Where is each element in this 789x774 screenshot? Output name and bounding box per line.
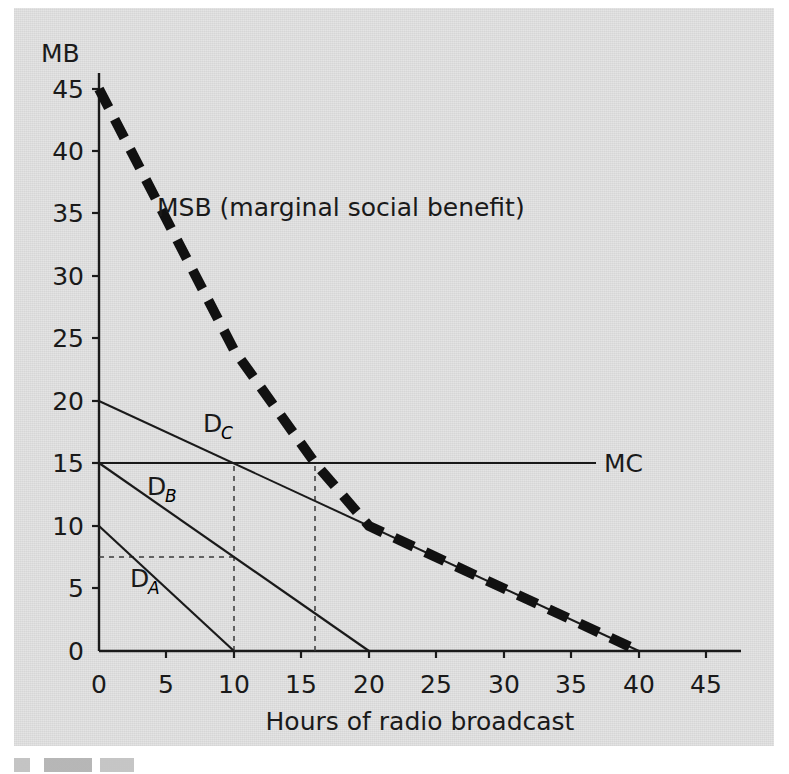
x-tick-label-5: 5 <box>158 670 174 699</box>
db-curve-label-subscript: B <box>165 486 177 506</box>
db-curve-label: D <box>147 472 166 501</box>
x-tick-label-45: 45 <box>690 670 722 699</box>
mc-curve-label: MC <box>604 449 643 478</box>
x-tick-label-35: 35 <box>555 670 587 699</box>
dc-curve-label-subscript: C <box>221 423 233 443</box>
axes-group <box>99 73 741 651</box>
msb-curve <box>99 89 639 651</box>
figure-container: 45 40 35 30 25 20 15 10 5 0 0 5 10 15 20… <box>0 0 789 774</box>
da-curve-label-group: D A <box>130 564 160 598</box>
x-tick-label-20: 20 <box>353 670 385 699</box>
dc-curve-label: D <box>203 409 222 438</box>
y-axis-title: MB <box>41 39 80 68</box>
x-tick-label-15: 15 <box>285 670 317 699</box>
y-tick-label-35: 35 <box>52 199 84 228</box>
x-tick-label-25: 25 <box>420 670 452 699</box>
page-bottom-artifact <box>14 758 314 772</box>
y-tick-label-20: 20 <box>52 387 84 416</box>
y-tick-labels: 45 40 35 30 25 20 15 10 5 0 <box>52 75 84 666</box>
y-tick-label-10: 10 <box>52 512 84 541</box>
x-tick-label-0: 0 <box>91 670 107 699</box>
x-tick-label-40: 40 <box>623 670 655 699</box>
x-tick-label-10: 10 <box>218 670 250 699</box>
y-tick-label-5: 5 <box>68 574 84 603</box>
x-axis-title: Hours of radio broadcast <box>266 707 575 736</box>
y-tick-label-45: 45 <box>52 75 84 104</box>
demand-curve-da <box>99 526 234 651</box>
da-curve-label-subscript: A <box>147 578 160 598</box>
x-tick-labels: 0 5 10 15 20 25 30 35 40 45 <box>91 670 722 699</box>
db-curve-label-group: D B <box>147 472 177 506</box>
y-tick-label-40: 40 <box>52 137 84 166</box>
chart-canvas: 45 40 35 30 25 20 15 10 5 0 0 5 10 15 20… <box>0 0 789 774</box>
y-tick-label-30: 30 <box>52 262 84 291</box>
msb-curve-label: MSB (marginal social benefit) <box>157 193 525 222</box>
dc-curve-label-group: D C <box>203 409 233 443</box>
y-tick-label-15: 15 <box>52 449 84 478</box>
y-tick-label-25: 25 <box>52 324 84 353</box>
x-tick-label-30: 30 <box>488 670 520 699</box>
y-tick-label-0: 0 <box>68 637 84 666</box>
da-curve-label: D <box>130 564 149 593</box>
